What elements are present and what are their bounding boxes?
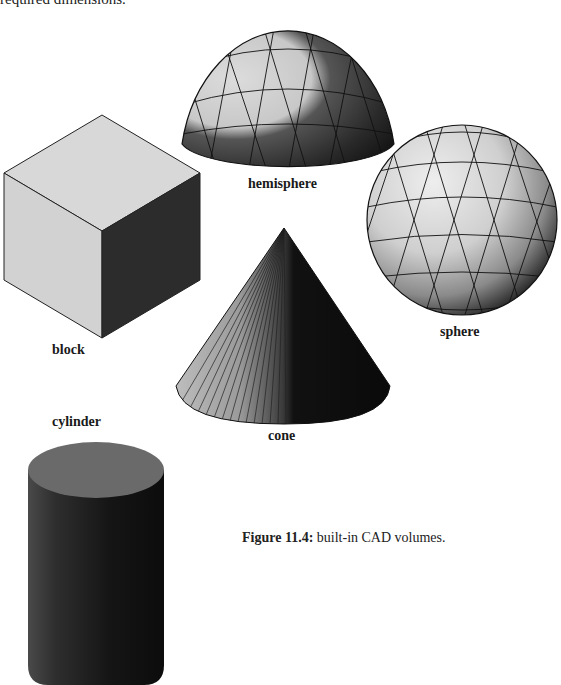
- cone-shape: [172, 226, 392, 426]
- figure-caption: Figure 11.4: built-in CAD volumes.: [242, 530, 446, 546]
- sphere-label: sphere: [440, 324, 479, 340]
- cone-label: cone: [268, 428, 295, 444]
- sphere-shape: [364, 122, 560, 318]
- hemisphere-label: hemisphere: [248, 176, 317, 192]
- page-text-fragment: required dimensions.: [0, 0, 126, 8]
- cylinder-label: cylinder: [52, 414, 101, 430]
- figure-number: Figure 11.4:: [242, 530, 313, 545]
- block-label: block: [52, 342, 85, 358]
- figure-caption-text: built-in CAD volumes.: [313, 530, 445, 545]
- cylinder-shape: [26, 440, 166, 685]
